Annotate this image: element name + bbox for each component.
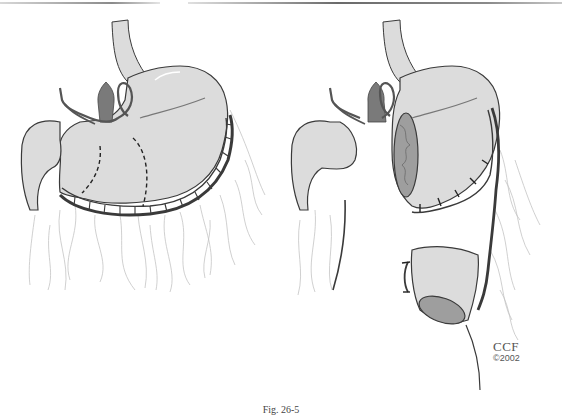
right-panel xyxy=(291,20,540,390)
stomach-left xyxy=(59,66,227,203)
duodenum-left xyxy=(21,121,61,210)
copyright-credit: CCF ©2002 xyxy=(493,340,520,363)
credit-ccf: CCF xyxy=(493,340,520,353)
duodenum-right xyxy=(291,121,356,210)
stomach-illustration xyxy=(0,0,562,415)
credit-year: ©2002 xyxy=(493,354,520,363)
figure-caption: Fig. 26-5 xyxy=(0,404,562,415)
left-panel xyxy=(21,20,265,292)
pylorus-left xyxy=(98,82,114,122)
gastric-vessels-left xyxy=(60,83,132,122)
